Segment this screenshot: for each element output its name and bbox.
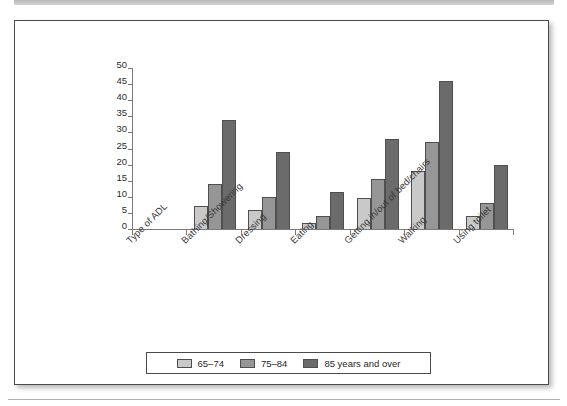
bar bbox=[494, 165, 508, 229]
legend-label: 85 years and over bbox=[324, 358, 400, 369]
legend-label: 65–74 bbox=[198, 358, 224, 369]
x-tick-mark bbox=[513, 230, 514, 235]
y-tick-label: 20 bbox=[103, 157, 127, 167]
legend-swatch bbox=[240, 359, 255, 368]
y-tick-label: 0 bbox=[103, 221, 127, 231]
y-tick-label: 10 bbox=[103, 189, 127, 199]
y-tick-label: 50 bbox=[103, 60, 127, 70]
bar bbox=[222, 120, 236, 229]
bar bbox=[316, 216, 330, 229]
y-axis-tick-labels: 50454035302520151050 bbox=[103, 65, 127, 230]
y-tick-label: 15 bbox=[103, 173, 127, 183]
chart-legend: 65–7475–8485 years and over bbox=[146, 352, 431, 374]
bar bbox=[425, 142, 439, 229]
y-tick-label: 40 bbox=[103, 92, 127, 102]
chart-plot-wrapper: 50454035302520151050 Type of ADLBathing/… bbox=[15, 21, 548, 384]
y-tick-label: 30 bbox=[103, 125, 127, 135]
y-tick-label: 45 bbox=[103, 76, 127, 86]
page-top-band bbox=[14, 0, 554, 5]
y-tick-label: 25 bbox=[103, 141, 127, 151]
bar-group bbox=[296, 68, 350, 229]
bar-group bbox=[405, 68, 459, 229]
page-bottom-rule bbox=[8, 399, 560, 400]
legend-item[interactable]: 75–84 bbox=[240, 358, 287, 369]
y-tick-label: 35 bbox=[103, 109, 127, 119]
legend-label: 75–84 bbox=[261, 358, 287, 369]
bar bbox=[276, 152, 290, 229]
bar-group bbox=[242, 68, 296, 229]
bar-plot-area bbox=[133, 68, 514, 229]
bar bbox=[330, 192, 344, 229]
bar bbox=[262, 197, 276, 229]
legend-swatch bbox=[303, 359, 318, 368]
legend-swatch bbox=[177, 359, 192, 368]
legend-item[interactable]: 65–74 bbox=[177, 358, 224, 369]
legend-item[interactable]: 85 years and over bbox=[303, 358, 400, 369]
page-root: 50454035302520151050 Type of ADLBathing/… bbox=[0, 0, 567, 406]
figure-frame: 50454035302520151050 Type of ADLBathing/… bbox=[14, 20, 549, 385]
bar bbox=[439, 81, 453, 229]
y-tick-label: 5 bbox=[103, 205, 127, 215]
